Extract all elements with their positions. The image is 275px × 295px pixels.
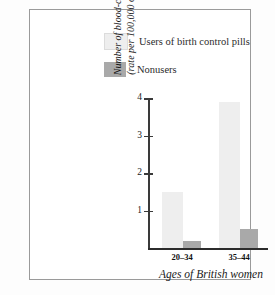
y-tick-mark-2 xyxy=(144,173,153,175)
y-tick-3: 3 xyxy=(148,136,157,138)
y-tick-label-1: 1 xyxy=(137,204,142,217)
y-tick-4: 4 xyxy=(148,98,157,100)
plot-area: 1 2 3 4 20–34 35–44 Number xyxy=(148,98,268,248)
figure-container: Users of birth control pills Nonusers 1 … xyxy=(0,0,275,295)
x-axis-title: Ages of British women xyxy=(136,268,275,280)
y-axis-title-line1: Number of blood-clotting deaths xyxy=(112,0,125,90)
y-tick-label-3: 3 xyxy=(137,129,142,142)
legend-label-users: Users of birth control pills xyxy=(139,36,250,47)
legend-label-nonusers: Nonusers xyxy=(137,64,177,75)
bar-users-20-34 xyxy=(162,192,183,248)
y-axis-title-line2: (rate per 100,000 of population) xyxy=(125,0,138,90)
bar-users-35-44 xyxy=(219,102,240,248)
y-tick-mark-1 xyxy=(144,211,153,213)
y-tick-2: 2 xyxy=(148,173,157,175)
y-axis-title: Number of blood-clotting deaths (rate pe… xyxy=(112,0,137,90)
y-tick-mark-3 xyxy=(144,136,153,138)
y-tick-1: 1 xyxy=(148,211,157,213)
x-category-label-20-34: 20–34 xyxy=(156,252,208,262)
y-tick-label-4: 4 xyxy=(137,91,142,104)
figure-frame: Users of birth control pills Nonusers 1 … xyxy=(29,9,251,280)
bar-nonusers-35-44 xyxy=(240,229,258,248)
y-tick-mark-4 xyxy=(144,98,153,100)
y-tick-label-2: 2 xyxy=(137,166,142,179)
x-category-label-35-44: 35–44 xyxy=(213,252,265,262)
bar-nonusers-20-34 xyxy=(183,241,201,249)
